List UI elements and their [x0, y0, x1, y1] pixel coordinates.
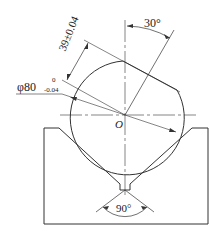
center-o-label: O [115, 118, 123, 130]
drawing-canvas [0, 0, 222, 240]
arrowhead-30-left [127, 24, 133, 28]
angle-30-line [125, 30, 174, 115]
diameter-upper-tolerance: 0 [52, 76, 56, 84]
diameter-lower-tolerance: -0.04 [44, 86, 59, 94]
arrowhead-dim39-bottom [67, 74, 71, 80]
angle-90-label: 90° [116, 202, 131, 214]
cylinder-profile [70, 61, 184, 175]
dim39-ext-top [84, 40, 180, 92]
arrowhead-dim39-top [84, 43, 88, 49]
diameter-label: φ80 [17, 80, 36, 95]
angle-30-label: 30° [144, 16, 161, 31]
arrowhead-diameter-right [169, 128, 176, 132]
